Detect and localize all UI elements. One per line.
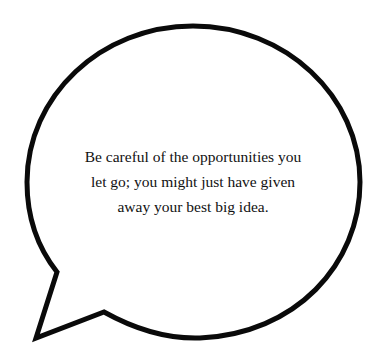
quote-line-1: Be careful of the opportunities you [80,144,306,169]
quote-text: Be careful of the opportunities you let … [80,144,306,219]
quote-line-2: let go; you might just have given [80,169,306,194]
quote-line-3: away your best big idea. [80,194,306,219]
